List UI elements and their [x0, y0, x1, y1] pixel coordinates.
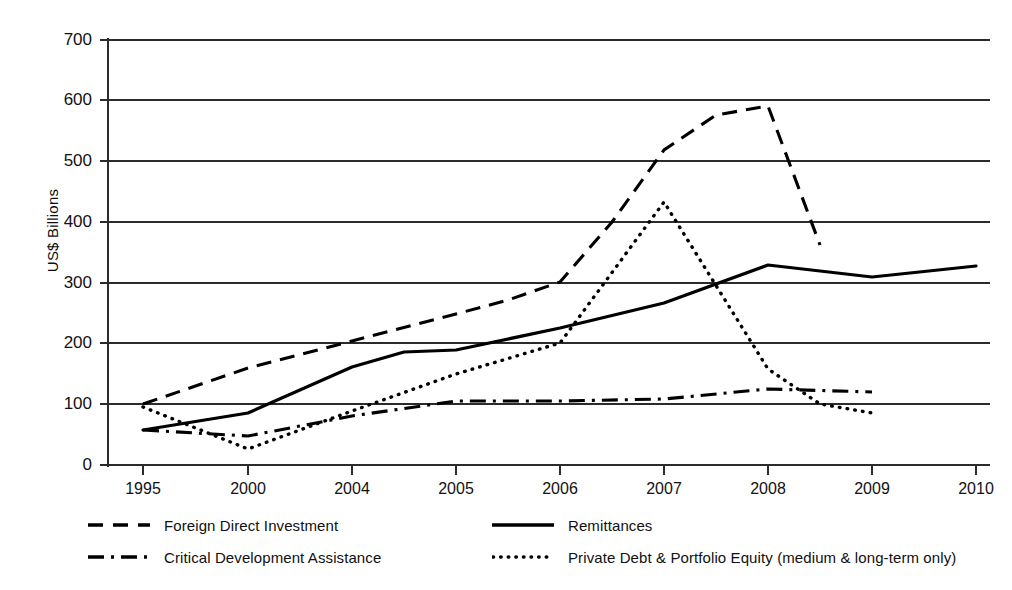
x-axis-ticks — [143, 465, 976, 475]
plot-area: US$ Billions 700 600 500 400 300 200 100… — [0, 0, 1012, 590]
legend-key-dotted-icon — [492, 550, 554, 564]
x-tick-label: 2009 — [832, 481, 912, 497]
y-tick-label: 200 — [30, 334, 92, 351]
legend-label: Remittances — [568, 517, 652, 534]
x-tick-label: 1995 — [103, 481, 183, 497]
x-tick-label: 2006 — [520, 481, 600, 497]
y-tick-label: 0 — [30, 456, 92, 473]
legend-label: Foreign Direct Investment — [164, 517, 338, 534]
x-tick-label: 2008 — [728, 481, 808, 497]
x-tick-label: 2000 — [208, 481, 288, 497]
legend-item-private-debt-portfolio-equity: Private Debt & Portfolio Equity (medium … — [492, 544, 956, 570]
x-tick-label: 2005 — [416, 481, 496, 497]
y-tick-label: 500 — [30, 152, 92, 169]
legend-key-dash-dot-icon — [88, 550, 150, 564]
series-line-foreign-direct-investment — [143, 106, 820, 404]
y-tick-label: 600 — [30, 91, 92, 108]
chart-figure: US$ Billions 700 600 500 400 300 200 100… — [0, 0, 1012, 590]
x-tick-label: 2010 — [936, 481, 1012, 497]
legend-label: Private Debt & Portfolio Equity (medium … — [568, 549, 956, 566]
y-tick-label: 400 — [30, 213, 92, 230]
legend-item-foreign-direct-investment: Foreign Direct Investment — [88, 512, 338, 538]
series-line-remittances — [143, 265, 976, 430]
y-tick-label: 100 — [30, 395, 92, 412]
y-axis-ticks — [100, 40, 108, 465]
legend-item-critical-development-assistance: Critical Development Assistance — [88, 544, 381, 570]
chart-svg — [0, 0, 1012, 590]
x-tick-label: 2007 — [624, 481, 704, 497]
y-tick-label: 700 — [30, 31, 92, 48]
legend-label: Critical Development Assistance — [164, 549, 381, 566]
y-tick-label: 300 — [30, 274, 92, 291]
legend-key-dashed-icon — [88, 518, 150, 532]
legend-key-solid-icon — [492, 518, 554, 532]
chart-legend: Foreign Direct Investment Remittances Cr… — [88, 512, 988, 574]
x-tick-label: 2004 — [312, 481, 392, 497]
legend-item-remittances: Remittances — [492, 512, 652, 538]
